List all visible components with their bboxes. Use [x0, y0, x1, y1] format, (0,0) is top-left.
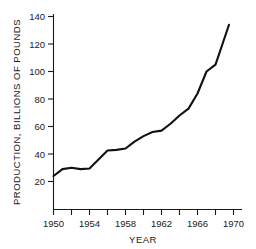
- x-tick-label: 1958: [115, 218, 136, 229]
- y-tick-label: 140: [29, 11, 45, 22]
- x-tick-label: 1950: [43, 218, 64, 229]
- y-tick-label: 120: [29, 39, 45, 50]
- x-tick-label: 1962: [151, 218, 172, 229]
- x-tick-label: 1970: [223, 218, 244, 229]
- y-tick-label: 100: [29, 66, 45, 77]
- y-axis-title: PRODUCTION, BILLIONS OF POUNDS: [11, 19, 22, 205]
- y-tick-label: 80: [34, 94, 45, 105]
- chart-container: 140 120 100 80 60 40 20 1950 1954 195: [0, 0, 256, 249]
- x-axis-title: YEAR: [129, 234, 157, 245]
- y-tick-label: 60: [34, 121, 45, 132]
- x-tick-label: 1954: [79, 218, 100, 229]
- y-tick-label: 40: [34, 149, 45, 160]
- y-tick-label: 20: [34, 176, 45, 187]
- line-chart: 140 120 100 80 60 40 20 1950 1954 195: [0, 0, 256, 249]
- x-tick-label: 1966: [187, 218, 208, 229]
